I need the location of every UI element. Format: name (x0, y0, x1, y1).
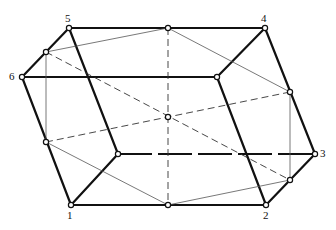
vertex-label-1: 1 (67, 210, 73, 221)
nodes (19, 25, 317, 207)
node-bottom-mid (165, 202, 170, 207)
node-top-mid (165, 25, 170, 30)
vertex-label-4: 4 (261, 13, 267, 24)
node-left-upper (43, 49, 48, 54)
node-center (165, 114, 170, 119)
vertex-label-5: 5 (65, 13, 71, 24)
node-left-lower (43, 139, 48, 144)
vertex-label-3: 3 (320, 148, 326, 159)
node-right-upper (287, 89, 292, 94)
vertex-label-6: 6 (9, 71, 15, 82)
node-2 (263, 202, 268, 207)
node-6 (19, 74, 24, 79)
node-1 (68, 202, 73, 207)
node-5 (66, 25, 71, 30)
node-front-top-right (214, 74, 219, 79)
node-right-lower (287, 177, 292, 182)
node-4 (262, 25, 267, 30)
diagram-canvas (0, 0, 336, 230)
node-3 (312, 151, 317, 156)
vertex-label-2: 2 (263, 210, 269, 221)
node-back-bottom-left (115, 151, 120, 156)
